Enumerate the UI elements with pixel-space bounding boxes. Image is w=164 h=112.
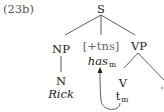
trace-tm: tm (116, 90, 129, 106)
trace-index-m: m (121, 95, 128, 104)
node-np: NP (52, 43, 70, 55)
node-vp: VP (131, 40, 147, 52)
word-has-text: has (88, 54, 108, 68)
branch-s-vp (101, 15, 135, 35)
node-v: V (119, 77, 127, 89)
index-m: m (109, 60, 116, 69)
word-has: hasm (88, 55, 116, 71)
node-s: S (97, 3, 105, 15)
branch-vp-v (124, 53, 138, 68)
branch-vp-right (138, 53, 164, 80)
dot-mark (161, 87, 163, 89)
trace-t: t (116, 89, 121, 103)
tree-branches (0, 0, 164, 112)
node-infl-feature: [+tns] (83, 40, 120, 52)
node-n: N (56, 75, 66, 87)
example-number: (23b) (3, 3, 34, 15)
word-rick: Rick (48, 88, 74, 100)
branch-s-np (65, 15, 101, 35)
